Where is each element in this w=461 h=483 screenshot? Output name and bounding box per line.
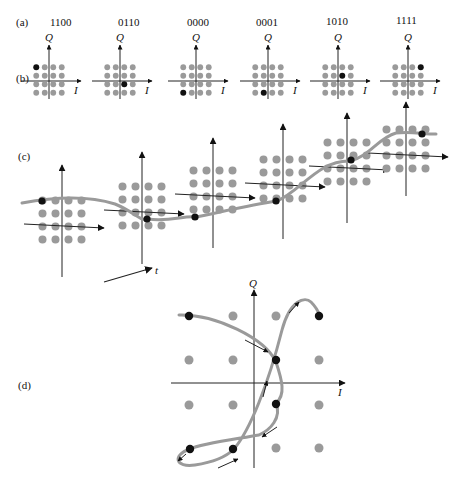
symbol-highlight (143, 215, 150, 222)
i-axis-label: I (73, 84, 79, 96)
symbol-dot (272, 312, 281, 321)
symbol-dot (121, 73, 127, 79)
i-axis (24, 224, 104, 228)
symbol-dot (189, 73, 195, 79)
q-axis-label: Q (249, 277, 257, 289)
symbol-dot (59, 81, 65, 87)
symbol-highlight (229, 445, 237, 453)
symbol-dot (78, 236, 86, 244)
code-label-1: 0110 (118, 16, 140, 28)
symbol-dot (185, 401, 194, 410)
symbol-dot (185, 356, 194, 365)
symbol-dot (269, 90, 275, 96)
symbol-dot (252, 64, 258, 70)
symbol-dot (278, 90, 284, 96)
symbol-dot (337, 178, 345, 186)
i-axis-label: I (337, 386, 343, 398)
symbol-highlight (33, 64, 39, 70)
symbol-dot (203, 180, 211, 188)
symbol-highlight (339, 73, 345, 79)
symbol-dot (273, 182, 281, 190)
symbol-dot (132, 196, 140, 204)
symbol-dot (104, 90, 110, 96)
symbol-dot (269, 81, 275, 87)
symbol-dot (216, 180, 224, 188)
constellation-0110: QI (92, 31, 152, 99)
panel-c-time-sequence (22, 102, 448, 277)
symbol-dot (324, 152, 332, 160)
symbol-highlight (191, 213, 198, 220)
symbol-dot (50, 90, 56, 96)
constellation-1111: QI (380, 31, 440, 99)
symbol-dot (260, 156, 268, 164)
symbol-highlight (186, 445, 194, 453)
symbol-dot (229, 167, 237, 175)
symbol-dot (409, 81, 415, 87)
direction-arrow (218, 459, 238, 468)
symbol-dot (331, 90, 337, 96)
symbol-dot (121, 90, 127, 96)
symbol-dot (229, 180, 237, 188)
q-axis-label: Q (192, 31, 200, 43)
symbol-dot (203, 206, 211, 214)
symbol-dot (50, 81, 56, 87)
symbol-dot (132, 183, 140, 191)
symbol-dot (337, 165, 345, 173)
symbol-dot (299, 156, 307, 164)
symbol-dot (418, 73, 424, 79)
symbol-dot (272, 444, 281, 453)
symbol-dot (401, 90, 407, 96)
panel-label-c: (c) (18, 150, 31, 163)
symbol-highlight (272, 356, 280, 364)
symbol-dot (261, 64, 267, 70)
symbol-highlight (180, 90, 186, 96)
code-label-5: 1111 (396, 14, 417, 26)
symbol-dot (113, 81, 119, 87)
symbol-dot (121, 64, 127, 70)
symbol-dot (315, 401, 324, 410)
symbol-dot (350, 139, 358, 147)
symbol-dot (269, 73, 275, 79)
time-axis-label: t (155, 264, 159, 276)
symbol-dot (119, 222, 127, 230)
symbol-dot (33, 73, 39, 79)
constellation-c6 (368, 102, 448, 196)
symbol-dot (324, 139, 332, 147)
symbol-dot (392, 73, 398, 79)
symbol-dot (299, 195, 307, 203)
code-label-0: 1100 (50, 16, 72, 28)
i-axis-label: I (432, 84, 438, 96)
i-axis-label: I (362, 84, 368, 96)
symbol-dot (229, 356, 238, 365)
symbol-dot (113, 64, 119, 70)
symbol-dot (383, 152, 391, 160)
symbol-dot (331, 64, 337, 70)
symbol-dot (348, 81, 354, 87)
symbol-dot (132, 222, 140, 230)
symbol-dot (286, 156, 294, 164)
q-axis-label: Q (404, 31, 412, 43)
symbol-dot (260, 182, 268, 190)
symbol-dot (180, 64, 186, 70)
symbol-dot (315, 444, 324, 453)
symbol-dot (273, 156, 281, 164)
symbol-dot (113, 73, 119, 79)
symbol-dot (52, 236, 60, 244)
symbol-dot (339, 64, 345, 70)
symbol-dot (130, 81, 136, 87)
symbol-dot (59, 73, 65, 79)
symbol-dot (145, 183, 153, 191)
signal-trajectory (22, 132, 436, 219)
symbol-dot (348, 73, 354, 79)
symbol-dot (229, 312, 238, 321)
symbol-dot (383, 165, 391, 173)
symbol-dot (189, 81, 195, 87)
symbol-dot (350, 178, 358, 186)
symbol-dot (50, 73, 56, 79)
symbol-dot (197, 73, 203, 79)
symbol-dot (39, 236, 47, 244)
constellation-0001: QI (240, 31, 300, 99)
symbol-dot (52, 223, 60, 231)
i-axis-label: I (220, 84, 226, 96)
symbol-dot (322, 73, 328, 79)
